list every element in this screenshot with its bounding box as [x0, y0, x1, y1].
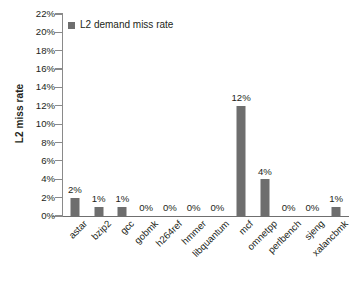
y-axis-tick	[55, 179, 63, 180]
y-axis-tick-label: 0%	[19, 211, 55, 221]
y-axis-tick-label: 2%	[19, 193, 55, 203]
y-axis-tick-label: 6%	[19, 156, 55, 166]
bar-slot: 0%	[277, 14, 301, 216]
y-axis-tick-label: 22%	[19, 9, 55, 19]
y-axis-tick-label: 14%	[19, 82, 55, 92]
bar-slot: 0%	[158, 14, 182, 216]
bar-chart: L2 miss rate 0%2%4%6%8%10%12%14%16%18%20…	[0, 0, 357, 283]
y-axis-tick	[55, 124, 63, 125]
y-axis-tick-labels: 0%2%4%6%8%10%12%14%16%18%20%22%	[10, 0, 55, 283]
y-axis-tick-label: 16%	[19, 64, 55, 74]
y-axis-tick	[55, 13, 63, 14]
y-axis-tick	[55, 87, 63, 88]
bar-slot: 1%	[111, 14, 135, 216]
y-axis-tick	[55, 142, 63, 143]
y-axis-tick-label: 8%	[19, 138, 55, 148]
y-axis-tick-label: 18%	[19, 46, 55, 56]
bar-value-label: 1%	[115, 194, 129, 204]
bar-slot: 4%	[253, 14, 277, 216]
bar-value-label: 1%	[92, 194, 106, 204]
y-axis-tick	[55, 68, 63, 69]
y-axis-tick-label: 4%	[19, 174, 55, 184]
bar-slot: 2%	[63, 14, 87, 216]
bar-value-label: 2%	[68, 185, 82, 195]
bar-slot: 0%	[301, 14, 325, 216]
bar[interactable]	[70, 198, 79, 216]
y-axis-tick	[55, 50, 63, 51]
y-axis-tick	[55, 160, 63, 161]
y-axis-tick	[55, 32, 63, 33]
bar-value-label: 0%	[139, 203, 153, 213]
y-axis-tick-label: 10%	[19, 119, 55, 129]
bar-value-label: 4%	[258, 167, 272, 177]
bar-value-label: 1%	[329, 194, 343, 204]
y-axis-tick	[55, 197, 63, 198]
bar-slot: 0%	[206, 14, 230, 216]
bar-slot: 0%	[182, 14, 206, 216]
bar-value-label: 12%	[232, 93, 251, 103]
bar-slot: 1%	[87, 14, 111, 216]
bar-slot: 0%	[134, 14, 158, 216]
y-axis-tick	[55, 215, 63, 216]
y-axis-tick-label: 20%	[19, 27, 55, 37]
y-axis-tick-label: 12%	[19, 101, 55, 111]
bar-slot: 1%	[324, 14, 348, 216]
y-axis-tick	[55, 105, 63, 106]
plot-area: 2%1%1%0%0%0%0%12%4%0%0%1%	[63, 14, 348, 216]
bar[interactable]	[260, 179, 269, 216]
